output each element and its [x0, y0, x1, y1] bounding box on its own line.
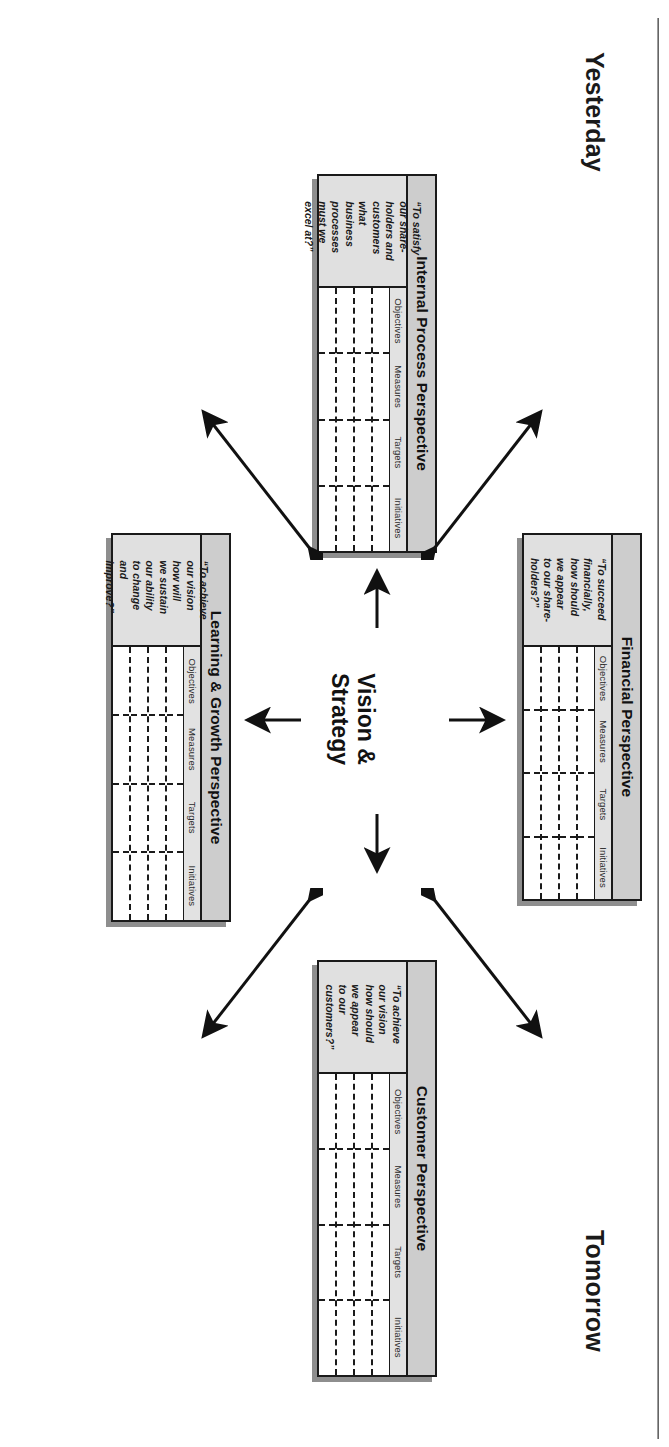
grid-rows [524, 647, 594, 899]
scorecard-grid: Objectives Measures Targets Initiatives [319, 288, 406, 551]
quote-cell-learning-growth: “To achieve our vision how will we susta… [113, 535, 200, 647]
grid-cell[interactable] [373, 288, 389, 352]
grid-cell[interactable] [355, 1074, 371, 1148]
grid-row [524, 647, 542, 899]
column-header-measures: Measures [390, 1149, 406, 1224]
grid-cell[interactable] [373, 1299, 389, 1375]
grid-cell[interactable] [149, 851, 165, 920]
grid-cell[interactable] [373, 1224, 389, 1300]
grid-cell[interactable] [542, 772, 558, 836]
card-customer-perspective[interactable]: Customer Perspective “To achieve our vis… [317, 960, 437, 1377]
grid-cell[interactable] [560, 772, 576, 836]
grid-cell[interactable] [337, 288, 353, 352]
grid-cell[interactable] [131, 647, 147, 714]
grid-cell[interactable] [319, 288, 335, 352]
grid-cell[interactable] [319, 1299, 335, 1375]
grid-cell[interactable] [560, 836, 576, 900]
card-body: “To achieve our vision how will we susta… [113, 535, 200, 920]
column-header-targets: Targets [595, 773, 611, 836]
grid-cell[interactable] [578, 647, 594, 709]
grid-cell[interactable] [560, 709, 576, 773]
arrow-learning-to-customer [193, 888, 323, 1048]
grid-cell[interactable] [167, 851, 183, 920]
arrow-center-to-customer [347, 812, 407, 882]
grid-cell[interactable] [337, 419, 353, 485]
grid-rows [113, 647, 183, 920]
scorecard-grid: Objectives Measures Targets Initiatives [319, 1074, 406, 1375]
grid-row [373, 288, 389, 551]
grid-cell[interactable] [319, 1224, 335, 1300]
grid-cell[interactable] [149, 647, 165, 714]
grid-cell[interactable] [355, 1224, 371, 1300]
grid-cell[interactable] [337, 485, 353, 551]
arrow-center-to-learning [243, 690, 303, 750]
grid-cell[interactable] [131, 851, 147, 920]
grid-row [337, 288, 355, 551]
grid-row [373, 1074, 389, 1375]
grid-cell[interactable] [131, 714, 147, 783]
column-header-targets: Targets [184, 784, 200, 852]
grid-cell[interactable] [355, 352, 371, 418]
grid-row [355, 288, 373, 551]
grid-rows [319, 1074, 389, 1375]
grid-cell[interactable] [149, 714, 165, 783]
grid-cell[interactable] [373, 419, 389, 485]
grid-cell[interactable] [542, 709, 558, 773]
arrow-center-to-financial [447, 690, 507, 750]
grid-row [355, 1074, 373, 1375]
grid-cell[interactable] [337, 352, 353, 418]
grid-cell[interactable] [524, 647, 540, 709]
grid-cell[interactable] [131, 783, 147, 852]
quote-text: “To achieve our vision how should we app… [322, 985, 403, 1050]
grid-cell[interactable] [113, 714, 129, 783]
grid-cell[interactable] [319, 1074, 335, 1148]
grid-rows [319, 288, 389, 551]
grid-cell[interactable] [373, 485, 389, 551]
grid-cell[interactable] [167, 783, 183, 852]
card-learning-growth-perspective[interactable]: Learning & Growth Perspective “To achiev… [111, 533, 231, 922]
grid-cell[interactable] [337, 1299, 353, 1375]
arrow-internal-to-financial [421, 400, 551, 560]
grid-cell[interactable] [373, 1074, 389, 1148]
grid-row [560, 647, 578, 899]
grid-row [131, 647, 149, 920]
grid-cell[interactable] [113, 783, 129, 852]
grid-cell[interactable] [167, 647, 183, 714]
grid-header-row: Objectives Measures Targets Initiatives [183, 647, 200, 920]
card-internal-process-perspective[interactable]: Internal Process Perspective “To satisfy… [317, 174, 437, 553]
card-title-financial: Financial Perspective [611, 535, 640, 899]
arrow-financial-to-customer [421, 888, 551, 1048]
grid-cell[interactable] [355, 485, 371, 551]
grid-cell[interactable] [355, 1148, 371, 1224]
grid-cell[interactable] [113, 647, 129, 714]
grid-cell[interactable] [355, 1299, 371, 1375]
grid-cell[interactable] [560, 647, 576, 709]
scorecard-grid: Objectives Measures Targets Initiatives [524, 647, 611, 899]
grid-cell[interactable] [373, 352, 389, 418]
grid-cell[interactable] [149, 783, 165, 852]
grid-cell[interactable] [578, 836, 594, 900]
grid-cell[interactable] [524, 772, 540, 836]
grid-cell[interactable] [373, 1148, 389, 1224]
grid-cell[interactable] [337, 1074, 353, 1148]
grid-cell[interactable] [578, 709, 594, 773]
grid-cell[interactable] [355, 288, 371, 352]
timeline-label-tomorrow: Tomorrow [580, 1230, 609, 1352]
grid-cell[interactable] [524, 709, 540, 773]
grid-cell[interactable] [355, 419, 371, 485]
grid-cell[interactable] [337, 1224, 353, 1300]
column-header-measures: Measures [390, 354, 406, 420]
grid-row [578, 647, 594, 899]
grid-cell[interactable] [167, 714, 183, 783]
grid-cell[interactable] [113, 851, 129, 920]
grid-cell[interactable] [542, 647, 558, 709]
card-financial-perspective[interactable]: Financial Perspective “To succeed financ… [522, 533, 642, 901]
grid-cell[interactable] [337, 1148, 353, 1224]
grid-cell[interactable] [578, 772, 594, 836]
quote-text: “To achieve our vision how will we susta… [103, 560, 211, 619]
grid-cell[interactable] [319, 1148, 335, 1224]
column-header-objectives: Objectives [390, 1074, 406, 1149]
grid-row [113, 647, 131, 920]
quote-text: “To satisfy our share- holders and custo… [302, 201, 423, 261]
grid-header-row: Objectives Measures Targets Initiatives [389, 288, 406, 551]
